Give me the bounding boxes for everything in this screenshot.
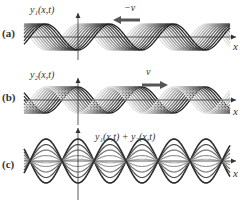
- panel-b: (b) y₂(x,t) x v⃗: [0, 65, 243, 127]
- x-axis-label-b: x: [233, 105, 238, 117]
- y2-axis-label: y₂(x,t): [30, 69, 54, 80]
- sum-label: y₁(x,t) + y₂(x,t): [95, 131, 155, 142]
- x-axis-label-c: x: [233, 167, 238, 179]
- panel-a-label: (a): [2, 27, 15, 39]
- panel-c-label: (c): [2, 158, 14, 170]
- y1-axis-label: y₁(x,t): [30, 4, 54, 15]
- velocity-label-b: v⃗: [146, 66, 158, 77]
- velocity-label-a: −v⃗: [124, 2, 143, 13]
- panel-a: (a) y₁(x,t) x −v⃗: [0, 0, 243, 65]
- panel-c: (c) y₁(x,t) + y₂(x,t) x: [0, 127, 243, 200]
- x-axis-label-a: x: [233, 40, 238, 52]
- panel-b-label: (b): [2, 91, 15, 103]
